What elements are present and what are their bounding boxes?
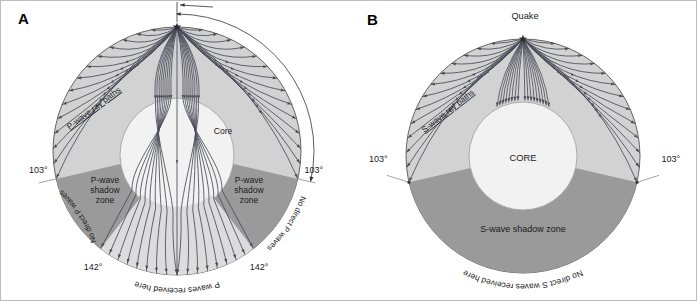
earth-cross-section xyxy=(39,2,316,275)
label-s-wave-shadow-zone: S-wave shadow zone xyxy=(480,224,566,234)
angle-leader-103 xyxy=(39,179,57,183)
label-core: CORE xyxy=(509,152,536,163)
panel-a-diagram: P-wave ray pathsCoreP-waveshadowzoneP-wa… xyxy=(1,1,351,301)
label-core: Core xyxy=(214,126,233,136)
panel-b-diagram: QuakeCORES-wave ray paths103°103°S-wave … xyxy=(351,1,697,301)
angle-marker-103 xyxy=(407,181,410,184)
angle-marker-103 xyxy=(635,181,638,184)
label-p-waves-received-here: P waves received here xyxy=(133,279,221,296)
label-103-left: 103° xyxy=(29,165,48,175)
angle-leader-103 xyxy=(637,175,659,182)
angle-leader-103 xyxy=(387,175,409,182)
panel-a: A P-wave ray pathsCoreP-waveshadowzoneP-… xyxy=(1,1,351,301)
angle-arc-leader xyxy=(180,5,213,7)
label-142-left: 142° xyxy=(84,262,103,272)
panel-a-letter: A xyxy=(18,10,29,27)
figure-container: A P-wave ray pathsCoreP-waveshadowzoneP-… xyxy=(0,0,697,301)
panel-b-letter: B xyxy=(367,11,378,28)
label-103-left: 103° xyxy=(369,154,388,164)
label-103-right: 103° xyxy=(304,165,323,175)
label-quake: Quake xyxy=(511,11,538,21)
angle-leader-103 xyxy=(298,179,316,183)
panel-b: B QuakeCORES-wave ray paths103°103°S-wav… xyxy=(351,1,697,301)
label-103-right: 103° xyxy=(661,154,680,164)
label-142-right: 142° xyxy=(250,262,269,272)
